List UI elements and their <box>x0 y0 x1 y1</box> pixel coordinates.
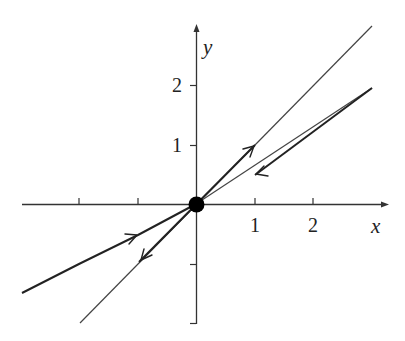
equilibrium-point <box>189 197 205 213</box>
x-axis-arrow-icon <box>381 202 389 208</box>
x-tick-label-1: 1 <box>250 214 260 236</box>
y-axis-arrow-icon <box>194 24 200 32</box>
y-tick-label-2: 2 <box>172 74 182 96</box>
unstable-line <box>80 26 372 323</box>
x-tick-label-2: 2 <box>308 214 318 236</box>
y-axis-label: y <box>201 35 213 59</box>
y-tick-label-1: 1 <box>172 134 182 156</box>
x-axis <box>22 198 389 208</box>
phase-portrait-diagram: y x 2 1 1 2 <box>0 0 405 341</box>
y-axis <box>190 24 200 324</box>
x-axis-label: x <box>370 214 381 238</box>
